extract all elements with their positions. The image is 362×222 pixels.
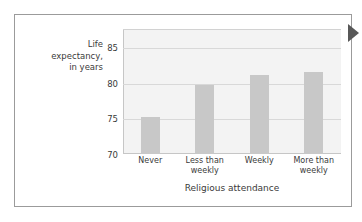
x-tick-label: Less than weekly	[178, 156, 233, 176]
bar	[250, 75, 269, 154]
y-tick-label: 70	[107, 150, 118, 160]
plot-inner: 70758085	[123, 30, 341, 154]
bar	[141, 117, 160, 154]
figure-card: Life expectancy, in years 70758085 Relig…	[14, 14, 352, 207]
y-tick-label: 80	[107, 79, 118, 89]
x-tick-label: More than weekly	[287, 156, 342, 176]
x-tick-label: Never	[123, 156, 178, 166]
triangle-right-icon	[348, 24, 359, 42]
x-tick-label: Weekly	[232, 156, 287, 166]
plot-area: 70758085	[123, 29, 341, 154]
y-tick-label: 85	[107, 43, 118, 53]
bar-chart: Life expectancy, in years 70758085 Relig…	[15, 15, 351, 206]
x-axis-title: Religious attendance	[123, 183, 341, 193]
bar	[304, 72, 323, 154]
bar	[195, 85, 214, 154]
y-tick-label: 75	[107, 114, 118, 124]
gridline	[123, 48, 341, 49]
y-axis-title: Life expectancy, in years	[19, 39, 103, 74]
